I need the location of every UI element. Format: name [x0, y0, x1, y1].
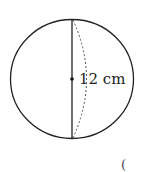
diameter-label: 12 cm	[79, 70, 125, 88]
center-point	[70, 77, 74, 81]
sphere-diagram: 12 cm (	[0, 0, 142, 172]
answer-bracket: (	[121, 157, 126, 172]
